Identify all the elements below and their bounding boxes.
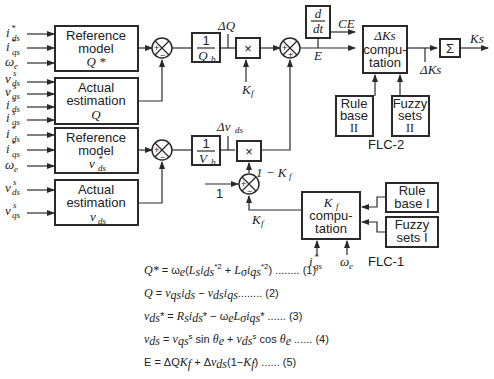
svg-text:qs: qs (12, 210, 21, 220)
e-signal-label: E (313, 48, 322, 63)
q-act-inputs: v s ds v s qs i s ds i s qs (5, 68, 54, 127)
svg-text:ΔKs: ΔKs (373, 28, 395, 43)
svg-text:Σ: Σ (446, 41, 454, 56)
v-ref-inputs: i * ds i * qs ω e (5, 124, 54, 174)
svg-text:f: f (261, 218, 265, 228)
input-iqs-star: i (6, 39, 10, 54)
svg-text:s: s (13, 68, 17, 78)
svg-text:*: * (11, 23, 16, 33)
svg-text:II: II (406, 121, 414, 135)
summing-junction-e: + + (280, 38, 300, 60)
svg-text:i: i (6, 126, 10, 141)
svg-text:tation: tation (315, 221, 347, 236)
q-ref-inputs: i * ds i * qs ω e (5, 23, 54, 71)
svg-text:base I: base I (394, 196, 429, 211)
flc-2-label: FLC-2 (368, 137, 404, 152)
svg-text:Q *: Q * (86, 54, 106, 69)
svg-text:1: 1 (202, 33, 209, 48)
svg-text:b: b (211, 54, 216, 64)
svg-text:+: + (154, 43, 159, 53)
svg-text:Q: Q (198, 48, 208, 63)
ks-output-label: Ks (469, 31, 484, 46)
flc-1-label: FLC-1 (368, 254, 404, 269)
input-we: ω (5, 54, 14, 69)
delta-ks-label: ΔKs (419, 62, 441, 77)
svg-text:ds: ds (98, 216, 107, 226)
svg-text:b: b (211, 157, 216, 167)
svg-text:s: s (13, 200, 17, 210)
svg-text:*: * (11, 139, 16, 149)
svg-text:tation: tation (369, 55, 401, 70)
svg-text:s: s (12, 107, 16, 117)
svg-text:ω: ω (340, 254, 349, 269)
one-input-label: 1 (216, 186, 223, 201)
svg-text:v: v (5, 180, 11, 195)
svg-text:i: i (6, 110, 10, 125)
summing-junction-q: + − (152, 38, 172, 60)
equations: Q* = ωe(Lsids*2 + Lσiqs*2) ........ (1) … (144, 262, 329, 371)
svg-text:v: v (90, 209, 96, 224)
svg-text:s: s (13, 81, 17, 91)
v-act-inputs: v s ds v s qs (5, 177, 54, 220)
svg-text:ds: ds (12, 187, 21, 197)
summing-junction-kf: + − (239, 174, 259, 196)
svg-text:*: * (11, 124, 16, 134)
svg-text:v: v (89, 156, 95, 171)
svg-text:ds: ds (98, 163, 107, 173)
svg-text:estimation: estimation (66, 93, 125, 108)
svg-text:1: 1 (202, 136, 209, 151)
svg-text:v: v (5, 203, 11, 218)
delta-q-label: ΔQ (217, 18, 236, 33)
svg-text:s: s (12, 94, 16, 104)
svg-text:f: f (289, 171, 293, 181)
svg-text:*: * (11, 37, 16, 47)
one-minus-kf-label: 1 − K (256, 165, 288, 180)
svg-text:+: + (154, 145, 159, 155)
svg-text:−: − (247, 186, 252, 196)
svg-text:−: − (160, 152, 165, 162)
svg-text:×: × (245, 144, 253, 159)
svg-text:i: i (6, 141, 10, 156)
equation-2: Q = vqsids − vdsiqs........ (2) (144, 286, 279, 302)
svg-text:+: + (288, 50, 293, 60)
svg-text:estimation: estimation (66, 195, 125, 210)
svg-text:+: + (282, 43, 287, 53)
svg-text:f: f (251, 88, 255, 98)
svg-text:d: d (315, 6, 322, 21)
control-block-diagram: i * ds i * qs ω e Reference model Q * v … (0, 0, 494, 379)
ce-signal-label: CE (338, 16, 355, 31)
delta-vds-label: Δv (216, 119, 231, 134)
summing-junction-v: + − (152, 140, 172, 162)
svg-text:II: II (350, 121, 358, 135)
svg-text:e: e (349, 261, 353, 271)
svg-text:×: × (244, 41, 252, 56)
svg-text:ds: ds (235, 125, 244, 135)
input-ids-star: i (6, 25, 10, 40)
svg-text:−: − (160, 50, 165, 60)
svg-text:Q: Q (91, 107, 101, 122)
svg-text:+: + (241, 179, 246, 189)
equation-5: E = ΔQKf + Δvds(1−Kf) ...... (5) (144, 355, 296, 371)
equation-4: vds = vqss sin θe + vdss cos θe ...... (… (144, 332, 329, 348)
svg-text:ω: ω (5, 157, 14, 172)
svg-text:dt: dt (313, 21, 324, 36)
svg-text:s: s (13, 177, 17, 187)
equation-1: Q* = ωe(Lsids*2 + Lσiqs*2) ........ (1) (144, 262, 316, 279)
svg-text:e: e (14, 164, 18, 174)
svg-text:sets I: sets I (396, 230, 427, 245)
svg-text:model: model (78, 143, 114, 158)
equation-3: vds* = Rsids* − ωeLσiqs* ...... (3) (144, 309, 302, 325)
